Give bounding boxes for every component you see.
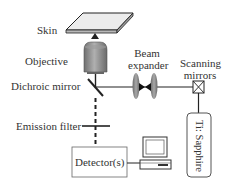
detector-label: Detector(s)	[75, 156, 124, 168]
scanning-mirrors-label-line2: mirrors	[180, 69, 220, 81]
objective-label: Objective	[25, 55, 68, 67]
scanning-mirrors-label: Scanning mirrors	[180, 57, 220, 81]
dichroic-mirror-label: Dichroic mirror	[11, 80, 80, 92]
objective-icon	[84, 42, 107, 74]
emission-filter-label: Emission filter	[16, 120, 81, 132]
excitation-arrow-icon	[91, 33, 99, 39]
scanning-mirrors-icon	[193, 81, 204, 93]
scanning-mirrors-label-line1: Scanning	[180, 57, 220, 69]
beam-expander-label-line2: expander	[128, 59, 166, 71]
beam-expander-icon	[133, 73, 158, 99]
laser-label: Ti: Sapphire	[193, 118, 205, 174]
beam-expander-label: Beam expander	[128, 47, 166, 71]
skin-label: Skin	[37, 24, 57, 36]
beam-expander-label-line1: Beam	[128, 47, 166, 59]
computer-icon	[140, 137, 171, 169]
skin-plate	[66, 13, 133, 33]
